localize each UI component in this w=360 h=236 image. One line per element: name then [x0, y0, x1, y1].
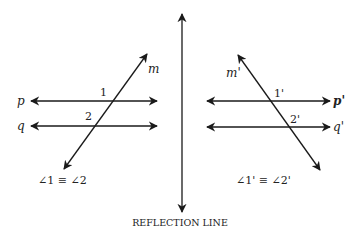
label-p-prime: p': [333, 94, 345, 108]
angle-2-prime-label: 2': [290, 113, 300, 126]
transversal-m-prime: [238, 55, 320, 170]
reflection-line-label: REFLECTION LINE: [132, 217, 228, 228]
label-m: m: [148, 62, 159, 76]
reflection-diagram: p q m 1 2 ∠1 ≡ ∠2 REFLECTION LINE p' q' …: [0, 0, 360, 236]
angle-1-label: 1: [100, 86, 107, 99]
transversal-m: [64, 54, 147, 169]
label-p: p: [17, 94, 25, 108]
reflected-figure: p' q' m' 1' 2' ∠1' ≡ ∠2': [207, 55, 345, 187]
reflection-line-group: REFLECTION LINE: [132, 14, 228, 228]
label-q-prime: q': [333, 120, 344, 134]
angle-1-prime-label: 1': [274, 87, 284, 100]
label-q: q: [17, 119, 25, 133]
original-figure: p q m 1 2 ∠1 ≡ ∠2: [17, 54, 159, 187]
congruence-statement: ∠1 ≡ ∠2: [38, 174, 87, 187]
angle-2-label: 2: [85, 110, 92, 123]
label-m-prime: m': [226, 66, 241, 80]
congruence-statement-prime: ∠1' ≡ ∠2': [236, 174, 291, 187]
